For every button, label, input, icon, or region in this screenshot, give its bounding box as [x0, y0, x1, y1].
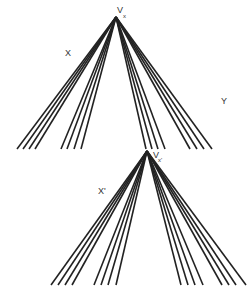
- label-y: Y: [221, 97, 227, 106]
- fan-line: [35, 17, 116, 149]
- fan-line: [72, 151, 147, 285]
- fan-diagram: [0, 0, 252, 293]
- fan-line: [147, 151, 236, 285]
- fan-line: [116, 17, 204, 149]
- fan-line: [116, 17, 190, 149]
- fan-line: [116, 17, 152, 149]
- fan-line: [116, 17, 158, 149]
- fan-line: [116, 17, 165, 149]
- fan-line: [147, 151, 181, 285]
- fan-line: [147, 151, 203, 285]
- fan-line: [147, 151, 188, 285]
- apex-subscript-bottom: x': [158, 157, 162, 163]
- fan-line: [67, 17, 116, 149]
- fan-line: [147, 151, 222, 285]
- fan-line: [81, 17, 116, 149]
- fan-line: [108, 151, 147, 285]
- bottom-fan: [51, 151, 246, 285]
- label-x-prime: X': [98, 187, 106, 196]
- apex-subscript-top: x: [123, 13, 126, 19]
- fan-line: [65, 151, 147, 285]
- fan-line: [74, 17, 116, 149]
- top-fan: [17, 17, 212, 149]
- fan-line: [147, 151, 246, 285]
- fan-line: [51, 151, 147, 285]
- label-x: X: [65, 49, 71, 58]
- fan-line: [101, 151, 147, 285]
- fan-line: [116, 17, 197, 149]
